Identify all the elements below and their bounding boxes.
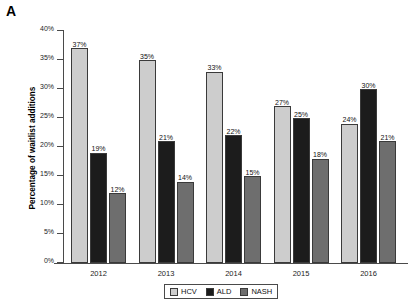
figure-panel-a: A Percentage of waitlist additions 0%5%1… (0, 0, 420, 307)
y-axis-tick-label: 40% (40, 25, 54, 32)
bar-ald-2016: 30% (360, 89, 377, 263)
bar-value-label: 19% (91, 145, 105, 152)
bar-group-2016: 24%30%21%2016 (341, 31, 396, 263)
bar-value-label: 14% (178, 174, 192, 181)
bar-value-label: 15% (245, 169, 259, 176)
y-axis-spine (63, 30, 64, 264)
bar-value-label: 12% (110, 186, 124, 193)
bar-ald-2013: 21% (158, 141, 175, 263)
bar-nash-2012: 12% (109, 193, 126, 263)
bar-value-label: 33% (207, 64, 221, 71)
y-axis-tick: 40% (57, 30, 63, 31)
bar-nash-2016: 21% (379, 141, 396, 263)
x-axis-label-2015: 2015 (293, 270, 310, 278)
bar-group-2012: 37%19%12%2012 (71, 31, 126, 263)
bar-nash-2015: 18% (312, 159, 329, 263)
x-axis-label-2014: 2014 (225, 270, 242, 278)
bar-value-label: 18% (313, 151, 327, 158)
bar-value-label: 35% (140, 53, 154, 60)
legend-label-nash: NASH (251, 288, 272, 296)
y-axis-tick-label: 0% (44, 257, 54, 264)
x-axis-label-2016: 2016 (360, 270, 377, 278)
bar-value-label: 37% (72, 41, 86, 48)
y-axis-tick-label: 5% (44, 228, 54, 235)
bar-value-label: 27% (275, 99, 289, 106)
chart-legend: HCVALDNASH (164, 284, 278, 299)
bar-hcv-2013: 35% (139, 60, 156, 263)
bar-group-2014: 33%22%15%2014 (206, 31, 261, 263)
bar-value-label: 22% (226, 128, 240, 135)
y-axis-tick: 10% (57, 204, 63, 205)
y-axis-tick: 5% (57, 233, 63, 234)
legend-item-nash[interactable]: NASH (240, 288, 272, 296)
panel-letter: A (6, 4, 16, 18)
legend-item-hcv[interactable]: HCV (170, 288, 197, 296)
y-axis-tick-label: 35% (40, 54, 54, 61)
y-axis-tick-label: 10% (40, 199, 54, 206)
legend-swatch-hcv (170, 288, 178, 296)
bar-ald-2015: 25% (293, 118, 310, 263)
y-axis-tick: 20% (57, 146, 63, 147)
bar-group-2013: 35%21%14%2013 (139, 31, 194, 263)
legend-item-ald[interactable]: ALD (206, 288, 232, 296)
bar-value-label: 21% (159, 134, 173, 141)
legend-label-ald: ALD (217, 288, 232, 296)
y-axis-tick: 35% (57, 59, 63, 60)
y-axis-tick-label: 25% (40, 112, 54, 119)
legend-swatch-nash (240, 288, 248, 296)
legend-swatch-ald (206, 288, 214, 296)
bar-value-label: 24% (342, 116, 356, 123)
bar-nash-2014: 15% (244, 176, 261, 263)
bar-ald-2014: 22% (225, 135, 242, 263)
bar-ald-2012: 19% (90, 153, 107, 263)
bar-hcv-2016: 24% (341, 124, 358, 263)
bar-hcv-2015: 27% (274, 106, 291, 263)
x-axis-label-2012: 2012 (90, 270, 107, 278)
y-axis-tick-label: 15% (40, 170, 54, 177)
bar-value-label: 25% (294, 111, 308, 118)
plot-area: 0%5%10%15%20%25%30%35%40% 37%19%12%20123… (63, 31, 408, 263)
y-axis-tick-label: 20% (40, 141, 54, 148)
bar-hcv-2012: 37% (71, 48, 88, 263)
y-axis-tick-label: 30% (40, 83, 54, 90)
bar-value-label: 30% (361, 82, 375, 89)
x-axis-spine (54, 263, 408, 264)
y-axis-title: Percentage of waitlist additions (29, 38, 37, 258)
y-axis-tick: 15% (57, 175, 63, 176)
bar-value-label: 21% (380, 134, 394, 141)
y-axis-tick: 30% (57, 88, 63, 89)
bar-nash-2013: 14% (177, 182, 194, 263)
legend-label-hcv: HCV (181, 288, 197, 296)
y-axis-tick: 25% (57, 117, 63, 118)
y-axis-tick: 0% (57, 262, 63, 263)
x-axis-label-2013: 2013 (158, 270, 175, 278)
bar-hcv-2014: 33% (206, 72, 223, 263)
bar-group-2015: 27%25%18%2015 (274, 31, 329, 263)
